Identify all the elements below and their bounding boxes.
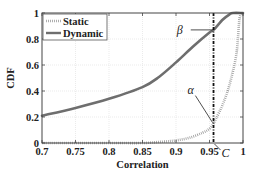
y-axis-tick-labels: 00.20.40.60.81 bbox=[26, 8, 40, 149]
y-tick-label: 1 bbox=[34, 8, 39, 19]
legend-static-label: Static bbox=[63, 16, 89, 27]
cdf-chart: 0.70.750.80.850.90.951 00.20.40.60.81 Co… bbox=[0, 0, 259, 176]
x-tick-label: 0.85 bbox=[133, 146, 151, 157]
x-tick-label: 0.9 bbox=[169, 146, 182, 157]
x-tick-label: 1 bbox=[240, 146, 245, 157]
legend-dynamic-label: Dynamic bbox=[63, 28, 104, 39]
beta-annotation: β bbox=[176, 23, 183, 37]
c-annotation: C bbox=[222, 146, 231, 160]
y-tick-label: 0.2 bbox=[26, 112, 39, 123]
x-tick-label: 0.95 bbox=[200, 146, 218, 157]
x-axis-tick-labels: 0.70.750.80.850.90.951 bbox=[35, 146, 245, 157]
x-tick-label: 0.75 bbox=[66, 146, 84, 157]
y-tick-label: 0.8 bbox=[26, 34, 39, 45]
y-axis-title: CDF bbox=[5, 67, 16, 89]
y-tick-label: 0.6 bbox=[26, 60, 39, 71]
x-tick-label: 0.8 bbox=[102, 146, 115, 157]
legend: Static Dynamic bbox=[43, 14, 107, 40]
y-tick-label: 0 bbox=[34, 138, 39, 149]
alpha-annotation: α bbox=[187, 83, 194, 97]
x-axis-title: Correlation bbox=[116, 159, 168, 170]
y-tick-label: 0.4 bbox=[26, 86, 40, 97]
alpha-pointer bbox=[195, 96, 212, 123]
